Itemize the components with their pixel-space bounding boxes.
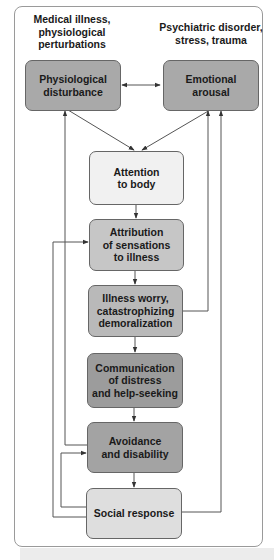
arrow-physio-attention [68,110,134,150]
arrow-avoidance-physio [65,111,87,445]
header-medical-illness: Medical illness, physiological perturbat… [22,13,122,51]
box-social-response: Social response [86,488,182,539]
box-attention-to-body: Attention to body [89,151,184,205]
box-avoidance: Avoidance and disability [87,422,183,473]
box-illness-worry: Illness worry, catastrophizing demoraliz… [88,285,183,337]
box-emotional-arousal: Emotional arousal [163,60,259,111]
arrow-social-avoidance [61,453,86,507]
header-psychiatric-disorder: Psychiatric disorder, stress, trauma [152,21,270,46]
arrow-social-attribution [53,242,88,517]
arrow-worry-emotional [182,111,208,311]
box-communication: Communication of distress and help-seeki… [87,353,183,408]
box-physiological-disturbance: Physiological disturbance [25,60,121,111]
arrow-emotional-attention [142,110,210,150]
box-attribution: Attribution of sensations to illness [89,219,184,271]
